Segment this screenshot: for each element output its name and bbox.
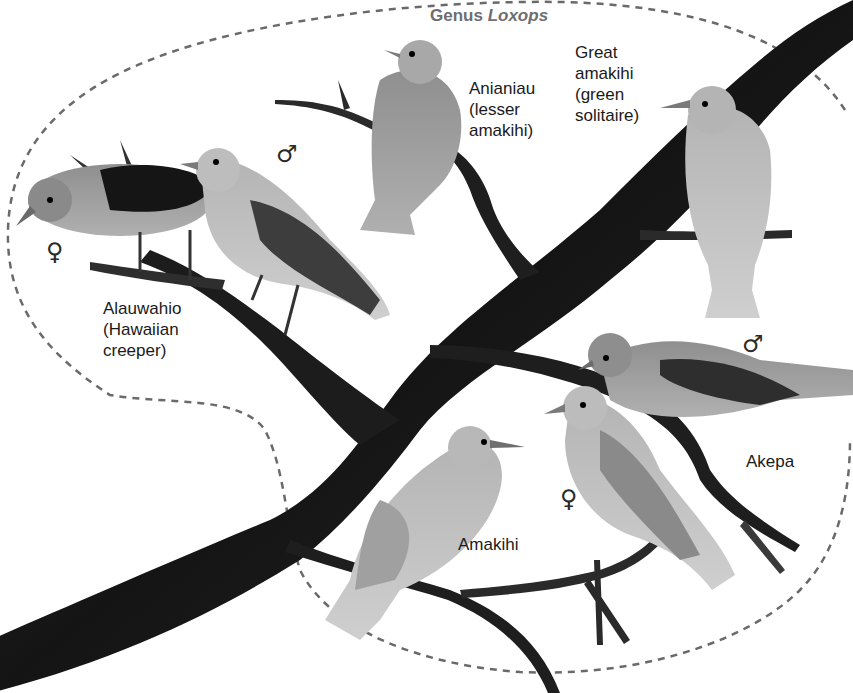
label-great-amakihi: Great amakihi (green solitaire) xyxy=(575,42,639,126)
label-line: solitaire) xyxy=(575,105,639,126)
male-symbol-alauwahio: ♂ xyxy=(276,142,298,166)
label-line: Alauwahio xyxy=(103,298,181,319)
label-akepa: Akepa xyxy=(746,451,794,472)
label-line: Akepa xyxy=(746,451,794,472)
label-alauwahio: Alauwahio (Hawaiian creeper) xyxy=(103,298,181,361)
label-line: Anianiau xyxy=(469,78,535,99)
genus-title: Genus Loxops xyxy=(430,6,548,26)
label-line: amakihi xyxy=(575,63,639,84)
label-line: (lesser xyxy=(469,99,535,120)
genus-name: Loxops xyxy=(488,6,548,25)
label-line: (Hawaiian xyxy=(103,319,181,340)
male-symbol-akepa: ♂ xyxy=(742,332,764,356)
label-amakihi: Amakihi xyxy=(458,534,518,555)
genus-prefix: Genus xyxy=(430,6,483,25)
label-line: amakihi) xyxy=(469,120,535,141)
label-line: creeper) xyxy=(103,340,181,361)
branch-anianiau xyxy=(445,150,540,280)
twig-upper-left xyxy=(275,80,380,132)
bird-alauwahio-male xyxy=(180,148,390,335)
female-symbol-alauwahio: ♀ xyxy=(46,240,64,264)
bird-akepa-male xyxy=(578,333,853,417)
label-line: Amakihi xyxy=(458,534,518,555)
label-anianiau: Anianiau (lesser amakihi) xyxy=(469,78,535,141)
label-line: (green xyxy=(575,84,639,105)
female-symbol-akepa: ♀ xyxy=(560,487,578,511)
bird-anianiau xyxy=(360,40,461,235)
label-line: Great xyxy=(575,42,639,63)
